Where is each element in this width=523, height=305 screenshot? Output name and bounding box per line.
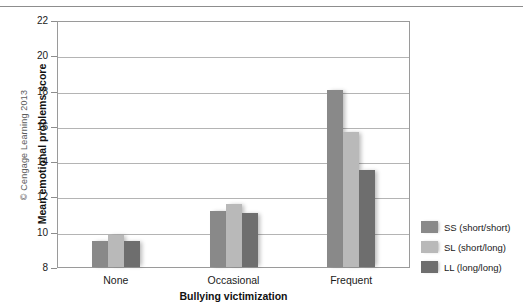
legend-label: SS (short/short) <box>444 222 511 233</box>
gridline <box>58 234 409 235</box>
gridline <box>58 93 409 94</box>
legend-color-swatch <box>421 261 438 273</box>
y-axis-tick-label: 8 <box>26 262 48 273</box>
x-axis-title: Bullying victimization <box>57 290 410 302</box>
y-axis-tick-label: 18 <box>26 86 48 97</box>
plot-area <box>57 21 410 268</box>
y-axis-tick-label: 12 <box>26 191 48 202</box>
y-axis-tick-label: 22 <box>26 15 48 26</box>
gridline <box>58 57 409 58</box>
legend-item: SS (short/short) <box>421 218 521 236</box>
y-axis-tick-label: 16 <box>26 121 48 132</box>
top-divider-rule <box>0 6 523 7</box>
x-axis-tick-label: None <box>61 274 171 286</box>
legend-item: SL (short/long) <box>421 238 521 256</box>
y-axis-tick-label: 10 <box>26 227 48 238</box>
y-axis-tick-label: 20 <box>26 50 48 61</box>
gridline <box>58 198 409 199</box>
legend-label: LL (long/long) <box>444 262 502 273</box>
legend-label: SL (short/long) <box>444 242 506 253</box>
gridline <box>58 163 409 164</box>
y-axis-title: Mean emotional problems score <box>36 34 48 254</box>
chart-legend: SS (short/short)SL (short/long)LL (long/… <box>421 218 521 278</box>
gridline <box>58 128 409 129</box>
y-axis-tick-label: 14 <box>26 156 48 167</box>
legend-color-swatch <box>421 221 438 233</box>
legend-item: LL (long/long) <box>421 258 521 276</box>
x-axis-tick-label: Occasional <box>179 274 289 286</box>
x-axis-tick-label: Frequent <box>296 274 406 286</box>
legend-color-swatch <box>421 241 438 253</box>
y-axis-tick-mark <box>51 268 57 269</box>
